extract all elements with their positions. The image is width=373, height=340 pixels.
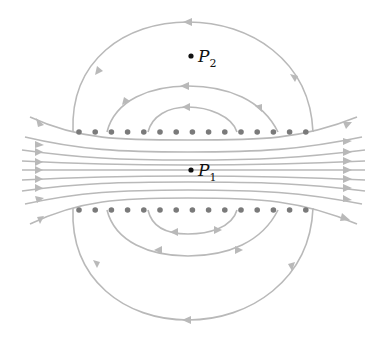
wire-dot — [222, 207, 228, 213]
wire-dot — [92, 207, 98, 213]
wire-dot — [141, 207, 147, 213]
point-p1-marker — [188, 167, 193, 172]
wire-dot — [157, 129, 163, 135]
point-p2-marker — [188, 53, 193, 58]
wire-dot — [76, 207, 82, 213]
wire-dot — [92, 129, 98, 135]
wire-dot — [287, 129, 293, 135]
wire-dot — [254, 207, 260, 213]
wire-dot — [206, 207, 212, 213]
wire-dot — [206, 129, 212, 135]
wire-dot — [190, 129, 196, 135]
top-middle-loop — [107, 86, 278, 132]
wire-dot — [125, 129, 131, 135]
wire-dot — [157, 207, 163, 213]
arrowheads — [35, 18, 352, 324]
wire-dot — [222, 129, 228, 135]
top-outer-loop — [73, 22, 313, 132]
wire-dot — [109, 207, 115, 213]
wire-dot — [271, 207, 277, 213]
wire-dot — [303, 129, 309, 135]
wire-dot — [141, 129, 147, 135]
through-line — [22, 176, 365, 180]
through-line — [25, 190, 362, 204]
wire-dot — [190, 207, 196, 213]
wire-dot — [76, 129, 82, 135]
through-line — [30, 117, 357, 140]
bottom-outer-loop — [73, 208, 313, 320]
top-wire-row — [76, 129, 308, 135]
top-inner-loop — [148, 107, 237, 132]
wire-dot — [238, 129, 244, 135]
through-line — [22, 161, 365, 165]
wire-dot — [303, 207, 309, 213]
wire-dot — [238, 207, 244, 213]
bottom-inner-loop — [148, 210, 237, 234]
point-p2-label: P2 — [197, 46, 216, 70]
bottom-middle-loop — [107, 210, 278, 256]
point-p1-label: P1 — [197, 160, 216, 184]
field-lines-svg: P2 P1 — [0, 0, 373, 340]
field-diagram: P2 P1 — [0, 0, 373, 340]
wire-dot — [109, 129, 115, 135]
wire-dot — [254, 129, 260, 135]
wire-dot — [125, 207, 131, 213]
wire-dot — [271, 129, 277, 135]
bottom-wire-row — [76, 207, 308, 213]
wire-dot — [173, 207, 179, 213]
wire-dot — [173, 129, 179, 135]
wire-dot — [287, 207, 293, 213]
